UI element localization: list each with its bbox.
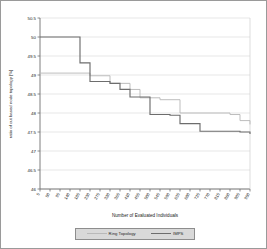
y-tick-label: 49 [31,73,36,78]
step-chart-plot: 4646.54747.54848.54949.55050.5 550951401… [1,1,267,249]
x-tick-label: 230 [83,191,91,200]
x-tick-label: 950 [243,191,251,200]
chart-legend: Ring Topology IMPS [75,228,195,240]
x-tick-label: 680 [183,191,191,200]
x-axis-ticks: 5509514018523027532036541045550054559063… [35,189,251,201]
legend-label-imps: IMPS [173,232,183,236]
x-tick-label: 635 [173,191,181,200]
x-tick-label: 5 [35,191,41,196]
y-tick-label: 50.5 [27,16,36,21]
chart-figure: 4646.54747.54848.54949.55050.5 550951401… [0,0,267,249]
x-tick-label: 365 [113,191,121,200]
x-tick-label: 860 [223,191,231,200]
data-series-group [40,37,250,134]
x-tick-label: 320 [103,191,111,200]
x-tick-label: 500 [143,191,151,200]
y-gridlines [40,18,250,189]
x-tick-label: 185 [73,191,81,200]
axis-frame [40,18,250,189]
y-tick-label: 50 [31,35,36,40]
x-tick-label: 815 [213,191,221,200]
y-tick-label: 48.5 [27,92,36,97]
x-tick-label: 545 [153,191,161,200]
legend-swatch-imps [151,233,171,234]
x-tick-label: 455 [133,191,141,200]
legend-item-imps: IMPS [151,232,183,236]
x-tick-label: 275 [93,191,101,200]
x-tick-label: 725 [193,191,201,200]
y-tick-label: 46 [31,187,36,192]
series-line-imps [40,37,250,134]
legend-label-ring-topology: Ring Topology [109,232,136,236]
legend-item-ring-topology: Ring Topology [87,232,136,236]
legend-swatch-ring-topology [87,233,107,234]
x-tick-label: 95 [54,191,61,198]
x-tick-label: 905 [233,191,241,200]
y-tick-label: 47 [31,149,36,154]
y-axis-ticks: 4646.54747.54848.54949.55050.5 [27,16,40,192]
x-tick-label: 140 [63,191,71,200]
x-tick-label: 50 [44,191,51,198]
x-axis-title: Number of Evaluated Individuals [112,213,179,218]
x-tick-label: 590 [163,191,171,200]
y-tick-label: 47.5 [27,130,36,135]
y-tick-label: 48 [31,111,36,116]
x-tick-label: 770 [203,191,211,200]
series-line-ring-topology [40,73,250,124]
y-tick-label: 49.5 [27,54,36,59]
y-tick-label: 46.5 [27,168,36,173]
y-axis-title: ratio of cut based node topology [%] [8,70,13,139]
x-tick-label: 410 [123,191,131,200]
